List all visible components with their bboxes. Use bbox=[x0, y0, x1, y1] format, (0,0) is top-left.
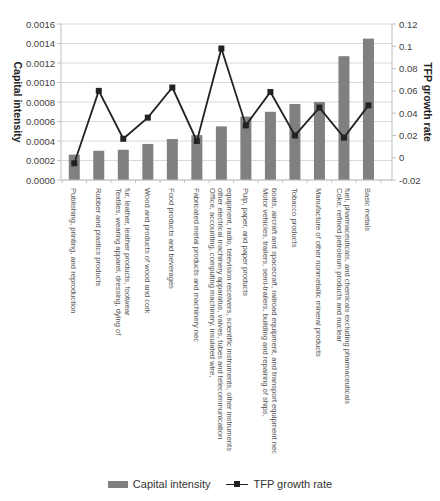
category-label: Pulp, paper, and paper products bbox=[241, 188, 250, 296]
combo-chart: 0.00000.00020.00040.00060.00080.00100.00… bbox=[0, 0, 440, 501]
category-label: Rubber and plastics products bbox=[94, 188, 103, 287]
square-marker-icon bbox=[194, 138, 200, 144]
square-marker-icon bbox=[96, 88, 102, 94]
svg-text:fuel, pharmaceuticals, and che: fuel, pharmaceuticals, and chemicals exc… bbox=[343, 188, 352, 404]
svg-text:Motor vehicles, trailers, semi: Motor vehicles, trailers, semi-trailers,… bbox=[261, 188, 270, 417]
category-label: Fabricated metal products and machinery … bbox=[192, 188, 201, 342]
left-tick-label: 0.0014 bbox=[26, 38, 55, 49]
square-marker-icon bbox=[267, 89, 273, 95]
square-marker-icon bbox=[71, 160, 77, 166]
category-label: Basic metals bbox=[363, 188, 372, 231]
left-tick-label: 0.0000 bbox=[26, 175, 55, 186]
right-tick-label: 0.04 bbox=[399, 108, 418, 119]
category-label: Tobacco products bbox=[290, 188, 299, 248]
svg-text:boats, aircraft and spacecraft: boats, aircraft and spacecraft, railroad… bbox=[270, 188, 279, 454]
left-tick-label: 0.0006 bbox=[26, 116, 55, 127]
svg-text:Manufacture of other nonmetall: Manufacture of other nonmetallic mineral… bbox=[314, 188, 323, 357]
legend-label: TFP growth rate bbox=[253, 478, 332, 490]
bar bbox=[338, 56, 349, 180]
category-label: Textiles, wearing apparel, dressing, dyi… bbox=[114, 188, 132, 336]
right-axis-title: TFP growth rate bbox=[422, 62, 434, 142]
bar bbox=[167, 139, 178, 180]
bar bbox=[142, 144, 153, 180]
square-marker-icon bbox=[243, 122, 249, 128]
left-tick-label: 0.0002 bbox=[26, 155, 55, 166]
legend-item-tfp-growth-rate: TFP growth rate bbox=[226, 478, 332, 490]
category-label: Office, accounting, computing machinery,… bbox=[208, 188, 234, 451]
left-tick-label: 0.0008 bbox=[26, 97, 55, 108]
left-tick-label: 0.0016 bbox=[26, 19, 55, 30]
bar bbox=[93, 151, 104, 180]
square-marker-icon bbox=[120, 136, 126, 142]
left-tick-label: 0.0012 bbox=[26, 58, 55, 69]
right-tick-label: -0.02 bbox=[399, 175, 421, 186]
bar bbox=[118, 150, 129, 180]
bar bbox=[216, 126, 227, 180]
svg-text:fur, leather, leather products: fur, leather, leather products, footwear bbox=[123, 188, 132, 316]
svg-text:Fabricated metal products and: Fabricated metal products and machinery … bbox=[192, 188, 201, 342]
left-axis-title: Capital intensity bbox=[12, 61, 24, 142]
bar bbox=[265, 112, 276, 180]
svg-text:Office, accounting, computing: Office, accounting, computing machinery,… bbox=[208, 188, 217, 377]
svg-text:other electrical machinery app: other electrical machinery apparatus, va… bbox=[216, 188, 225, 439]
right-tick-label: 0.06 bbox=[399, 85, 418, 96]
left-axis-ticks: 0.00000.00020.00040.00060.00080.00100.00… bbox=[26, 19, 61, 186]
right-tick-label: 0.1 bbox=[399, 41, 412, 52]
svg-text:Publishing, printing, and repr: Publishing, printing, and reproduction bbox=[69, 188, 78, 313]
right-tick-label: 0 bbox=[399, 152, 404, 163]
category-label: Publishing, printing, and reproduction bbox=[69, 188, 78, 313]
right-tick-label: 0.02 bbox=[399, 130, 418, 141]
svg-text:Textiles, wearing apparel, dre: Textiles, wearing apparel, dressing, dyi… bbox=[114, 188, 123, 336]
square-marker-icon bbox=[292, 132, 298, 138]
category-labels: Publishing, printing, and reproductionRu… bbox=[69, 188, 372, 454]
square-marker-icon bbox=[365, 102, 371, 108]
square-marker-icon bbox=[169, 85, 175, 91]
bar bbox=[69, 155, 80, 180]
svg-text:equipment, radio, television r: equipment, radio, television receivers, … bbox=[225, 188, 234, 451]
legend: Capital intensity TFP growth rate bbox=[0, 478, 440, 490]
svg-text:Pulp, paper, and paper product: Pulp, paper, and paper products bbox=[241, 188, 250, 296]
legend-label: Capital intensity bbox=[133, 478, 211, 490]
bar-swatch-icon bbox=[108, 481, 128, 488]
left-tick-label: 0.0004 bbox=[26, 136, 55, 147]
legend-item-capital-intensity: Capital intensity bbox=[108, 478, 211, 490]
square-marker-icon bbox=[145, 115, 151, 121]
category-label: Manufacture of other nonmetallic mineral… bbox=[314, 188, 323, 357]
category-label: Food products and beverages bbox=[167, 188, 176, 289]
bar bbox=[289, 104, 300, 180]
square-marker-icon bbox=[218, 46, 224, 52]
category-label: Coke, refined petroleum products and nuc… bbox=[335, 188, 353, 404]
square-marker-icon bbox=[341, 135, 347, 141]
svg-text:Wood and products of wood and: Wood and products of wood and cork bbox=[143, 188, 152, 314]
right-tick-label: 0.08 bbox=[399, 63, 418, 74]
svg-text:Coke, refined petroleum produc: Coke, refined petroleum products and nuc… bbox=[335, 188, 344, 343]
svg-text:Tobacco products: Tobacco products bbox=[290, 188, 299, 248]
category-label: Motor vehicles, trailers, semi-trailers,… bbox=[261, 188, 279, 454]
svg-text:Food products and beverages: Food products and beverages bbox=[167, 188, 176, 289]
line-marker-swatch-icon bbox=[226, 480, 248, 488]
svg-text:Basic metals: Basic metals bbox=[363, 188, 372, 231]
square-marker-icon bbox=[316, 105, 322, 111]
right-axis-ticks: -0.0200.020.040.060.080.10.12 bbox=[392, 19, 421, 186]
category-label: Wood and products of wood and cork bbox=[143, 188, 152, 314]
svg-text:Rubber and plastics products: Rubber and plastics products bbox=[94, 188, 103, 287]
right-tick-label: 0.12 bbox=[399, 19, 418, 30]
capital-intensity-bars bbox=[69, 39, 374, 180]
left-tick-label: 0.0010 bbox=[26, 77, 55, 88]
